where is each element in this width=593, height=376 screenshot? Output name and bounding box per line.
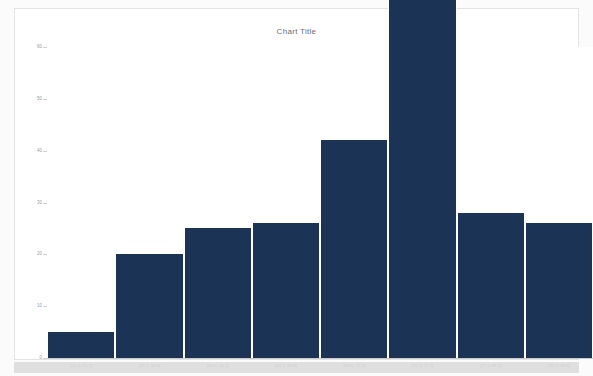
x-axis-line — [47, 358, 593, 359]
y-tick-label: 10 — [37, 304, 42, 309]
bar-slot — [320, 47, 388, 358]
bar-slot — [47, 47, 115, 358]
bar-slot — [184, 47, 252, 358]
y-tick-mark — [43, 358, 47, 359]
chart-screenshot: Chart Title 0102030405060 (51.4, 55.7](5… — [0, 0, 593, 376]
bar-slot — [388, 47, 456, 358]
chart-card: Chart Title 0102030405060 (51.4, 55.7](5… — [14, 8, 579, 360]
bar[interactable] — [525, 223, 593, 358]
bar[interactable] — [457, 213, 525, 358]
bottom-strip — [14, 362, 579, 373]
page-title: Chart Title — [15, 27, 578, 36]
bar-slot — [252, 47, 320, 358]
bar-slot — [115, 47, 183, 358]
bar[interactable] — [388, 0, 456, 358]
y-tick-label: 50 — [37, 97, 42, 102]
y-tick-label: 40 — [37, 148, 42, 153]
bar-slot — [525, 47, 593, 358]
y-tick-label: 0 — [39, 356, 42, 361]
bar[interactable] — [320, 140, 388, 358]
bar[interactable] — [115, 254, 183, 358]
bar[interactable] — [252, 223, 320, 358]
bar-series — [47, 47, 593, 358]
y-tick-label: 30 — [37, 200, 42, 205]
bar[interactable] — [47, 332, 115, 358]
plot-area: 0102030405060 — [47, 47, 593, 358]
bar[interactable] — [184, 228, 252, 358]
y-tick-label: 60 — [37, 45, 42, 50]
bar-slot — [457, 47, 525, 358]
y-tick-label: 20 — [37, 252, 42, 257]
